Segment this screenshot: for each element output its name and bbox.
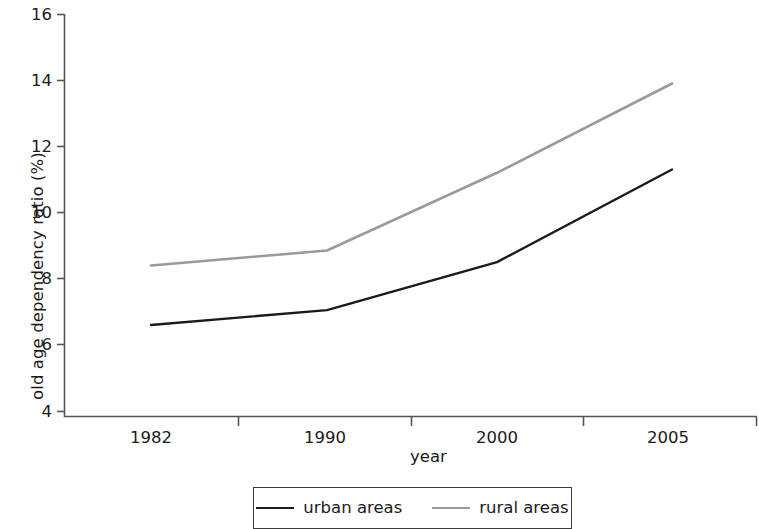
legend-entry-rural-areas: rural areas — [432, 500, 568, 517]
chart-legend: urban areas rural areas — [253, 487, 572, 529]
legend-entry-urban-areas: urban areas — [256, 500, 402, 517]
x-tick-marks — [239, 417, 757, 426]
legend-swatch-rural-areas — [432, 507, 470, 509]
legend-label-urban-areas: urban areas — [303, 500, 402, 517]
legend-swatch-urban-areas — [256, 507, 294, 509]
y-tick-marks — [57, 15, 64, 412]
series-line-rural-areas — [151, 83, 672, 265]
series-line-urban-areas — [151, 169, 672, 324]
legend-label-rural-areas: rural areas — [479, 500, 568, 517]
